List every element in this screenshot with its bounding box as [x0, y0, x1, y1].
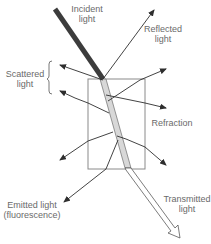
emitted-light-label: Emitted light (fluorescence)	[2, 200, 62, 220]
incident-label-line1: Incident	[67, 4, 107, 14]
transmitted-light-label: Transmitted light	[163, 194, 211, 214]
incident-label-line2: light	[67, 14, 107, 24]
refraction-label-text: Refraction	[151, 118, 192, 128]
scattered-label-line1: Scattered	[4, 69, 46, 79]
reflected-label-line1: Reflected	[141, 24, 185, 34]
refraction-label: Refraction	[148, 118, 196, 128]
emitted-light-arrow	[64, 140, 118, 202]
incident-light-label: Incident light	[67, 4, 107, 24]
reflected-light-arrow	[103, 10, 154, 79]
scatter-arrow-right-upper	[108, 69, 166, 101]
reflected-label-line2: light	[141, 34, 185, 44]
emitted-label-line2: (fluorescence)	[2, 210, 62, 220]
scatter-arrow-left-lower	[60, 132, 113, 160]
reflected-light-label: Reflected light	[141, 24, 185, 44]
scattered-label-line2: light	[4, 79, 46, 89]
scattered-light-arrow-lower	[60, 91, 109, 113]
refracted-beam	[100, 79, 131, 168]
transmitted-label-line2: light	[163, 204, 211, 214]
scatter-arrow-right-middle	[106, 95, 166, 108]
scattered-bracket	[47, 61, 52, 94]
scattered-light-label: Scattered light	[4, 69, 46, 89]
transmitted-label-line1: Transmitted	[163, 194, 211, 204]
emitted-label-line1: Emitted light	[2, 200, 62, 210]
